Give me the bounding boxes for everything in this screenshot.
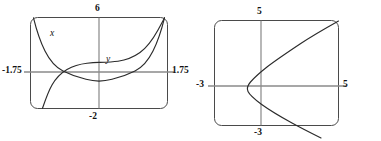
right-axis-label-right: 5: [343, 80, 348, 90]
left-graph-canvas: [0, 0, 196, 141]
left-axis-label-top: 6: [95, 4, 100, 14]
right-graph-panel: 5 -3 -3 5: [196, 0, 381, 141]
left-axis-label-bottom: -2: [89, 112, 97, 122]
left-axis-label-right: 1.75: [172, 66, 189, 76]
left-curve-y: [43, 18, 165, 109]
right-axis-label-top: 5: [257, 7, 262, 17]
right-graph-canvas: [196, 0, 381, 141]
left-curve-label-y: y: [106, 55, 110, 65]
right-axis-label-left: -3: [196, 80, 204, 90]
figure-container: 6 -2 -1.75 1.75 x y 5 -3 -3 5: [0, 0, 381, 141]
left-axis-label-left: -1.75: [2, 66, 22, 76]
right-plot-frame: [215, 21, 339, 126]
left-graph-panel: 6 -2 -1.75 1.75 x y: [0, 0, 196, 141]
left-curve-label-x: x: [50, 29, 54, 39]
right-axis-label-bottom: -3: [254, 128, 262, 138]
